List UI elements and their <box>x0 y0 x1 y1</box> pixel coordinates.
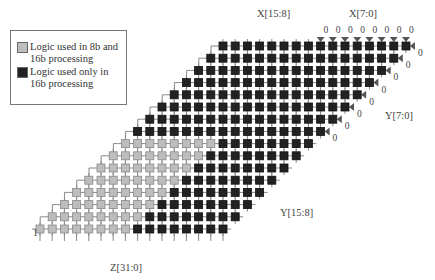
extended-logic-cell <box>219 42 227 50</box>
extended-logic-cell <box>207 225 215 233</box>
extended-logic-cell <box>207 164 215 172</box>
shared-logic-cell <box>97 225 105 233</box>
extended-logic-cell <box>182 225 190 233</box>
extended-logic-cell <box>243 140 251 148</box>
extended-logic-cell <box>195 188 203 196</box>
shared-logic-cell <box>109 213 117 221</box>
zero-input-marker-icon <box>390 37 398 42</box>
shared-logic-cell <box>109 152 117 160</box>
extended-logic-cell <box>256 176 264 184</box>
label-x-high: X[15:8] <box>257 8 290 19</box>
extended-logic-cell <box>292 66 300 74</box>
extended-logic-cell <box>182 103 190 111</box>
shared-logic-cell <box>121 188 129 196</box>
extended-logic-cell <box>231 176 239 184</box>
shared-logic-cell <box>109 201 117 209</box>
extended-logic-cell <box>231 164 239 172</box>
shared-logic-cell <box>60 213 68 221</box>
extended-logic-cell <box>170 91 178 99</box>
extended-logic-cell <box>219 213 227 221</box>
extended-logic-cell <box>207 115 215 123</box>
extended-logic-cell <box>317 91 325 99</box>
extended-logic-cell <box>158 225 166 233</box>
shared-logic-cell <box>121 140 129 148</box>
extended-logic-cell <box>219 188 227 196</box>
extended-logic-cell <box>329 79 337 87</box>
extended-logic-cell <box>256 66 264 74</box>
extended-logic-cell <box>219 66 227 74</box>
shared-logic-cell <box>170 176 178 184</box>
extended-logic-cell <box>292 54 300 62</box>
extended-logic-cell <box>207 176 215 184</box>
extended-logic-cell <box>158 213 166 221</box>
extended-logic-cell <box>256 140 264 148</box>
extended-logic-cell <box>243 91 251 99</box>
extended-logic-cell <box>280 91 288 99</box>
extended-logic-cell <box>304 127 312 135</box>
extended-logic-cell <box>304 54 312 62</box>
shared-logic-cell <box>97 176 105 184</box>
shared-logic-cell <box>134 164 142 172</box>
shared-logic-cell <box>158 176 166 184</box>
extended-logic-cell <box>170 103 178 111</box>
extended-logic-cell <box>182 213 190 221</box>
extended-logic-cell <box>317 42 325 50</box>
extended-logic-cell <box>292 152 300 160</box>
extended-logic-cell <box>365 42 373 50</box>
extended-logic-cell <box>256 127 264 135</box>
shared-logic-cell <box>85 225 93 233</box>
extended-logic-cell <box>268 140 276 148</box>
shared-logic-cell <box>97 213 105 221</box>
extended-logic-cell <box>353 79 361 87</box>
extended-logic-cell <box>207 213 215 221</box>
extended-logic-cell <box>268 115 276 123</box>
extended-logic-cell <box>353 54 361 62</box>
extended-logic-cell <box>231 188 239 196</box>
extended-logic-cell <box>146 127 154 135</box>
extended-logic-cell <box>304 115 312 123</box>
extended-logic-cell <box>134 225 142 233</box>
shared-logic-cell <box>48 225 56 233</box>
extended-logic-cell <box>231 42 239 50</box>
extended-logic-cell <box>292 140 300 148</box>
extended-logic-cell <box>182 127 190 135</box>
shared-logic-cell <box>121 152 129 160</box>
extended-logic-cell <box>280 140 288 148</box>
shared-logic-cell <box>170 164 178 172</box>
extended-logic-cell <box>219 201 227 209</box>
extended-logic-cell <box>268 152 276 160</box>
extended-logic-cell <box>243 79 251 87</box>
zero-input-label: 0 <box>348 25 353 35</box>
zero-input-marker-icon <box>337 115 342 123</box>
extended-logic-cell <box>195 201 203 209</box>
extended-logic-cell <box>292 91 300 99</box>
zero-input-marker-icon <box>365 37 373 42</box>
extended-logic-cell <box>280 164 288 172</box>
shared-logic-cell <box>146 176 154 184</box>
extended-logic-cell <box>329 66 337 74</box>
shared-logic-cell <box>97 188 105 196</box>
extended-logic-cell <box>219 225 227 233</box>
extended-logic-cell <box>390 54 398 62</box>
shared-logic-cell <box>134 213 142 221</box>
shared-logic-cell <box>73 213 81 221</box>
extended-logic-cell <box>365 54 373 62</box>
extended-logic-cell <box>280 152 288 160</box>
extended-logic-cell <box>268 91 276 99</box>
extended-logic-cell <box>207 91 215 99</box>
extended-logic-cell <box>243 188 251 196</box>
extended-logic-cell <box>390 42 398 50</box>
zero-input-label: 0 <box>333 133 338 143</box>
extended-logic-cell <box>219 115 227 123</box>
extended-logic-cell <box>268 54 276 62</box>
extended-logic-cell <box>304 42 312 50</box>
extended-logic-cell <box>195 164 203 172</box>
extended-logic-cell <box>170 115 178 123</box>
extended-logic-cell <box>329 103 337 111</box>
extended-logic-cell <box>329 115 337 123</box>
extended-logic-cell <box>231 140 239 148</box>
extended-logic-cell <box>268 66 276 74</box>
extended-logic-cell <box>304 66 312 74</box>
extended-logic-cell <box>195 66 203 74</box>
extended-logic-cell <box>231 127 239 135</box>
